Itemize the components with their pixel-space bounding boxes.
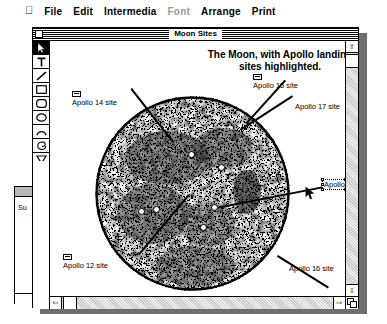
menu-item-print[interactable]: Print	[252, 6, 276, 17]
horizontal-scroll-thumb[interactable]	[63, 297, 77, 309]
scroll-left-button[interactable]: ⇦	[50, 297, 62, 309]
site-marker-apollo12[interactable]	[138, 208, 145, 215]
site-label-apollo11-selected[interactable]: Apollo 11 site	[322, 179, 345, 190]
site-marker-apollo16[interactable]	[200, 224, 207, 231]
site-marker-apollo17[interactable]	[218, 164, 225, 171]
window-shadow-right	[359, 33, 367, 314]
menu-item-file[interactable]: File	[44, 6, 62, 17]
rounded-rectangle-tool[interactable]	[33, 97, 49, 111]
arc-tool[interactable]	[33, 125, 49, 139]
site-label-apollo15[interactable]: Apollo 15 site	[253, 74, 298, 90]
rounded-rectangle-icon	[36, 99, 47, 108]
site-label-apollo14[interactable]: Apollo 14 site	[72, 91, 117, 107]
site-label-apollo14-text: Apollo 14 site	[72, 98, 117, 107]
site-marker-apollo15[interactable]	[188, 151, 195, 158]
document-icon	[63, 254, 72, 260]
close-box-icon[interactable]	[35, 30, 43, 38]
moon-surface-image	[95, 96, 290, 291]
freehand-icon	[36, 141, 47, 150]
arrow-pointer-icon	[305, 186, 316, 200]
menu-bar:  File Edit Intermedia Font Arrange Prin…	[0, 0, 387, 22]
site-label-apollo16-text: Apollo 16 site	[289, 264, 334, 273]
vertical-scroll-thumb[interactable]	[346, 54, 358, 68]
document-icon	[72, 91, 81, 97]
site-label-apollo11-text: Apollo 11 site	[324, 180, 345, 189]
site-label-apollo16[interactable]: Apollo 16 site	[289, 264, 334, 273]
site-label-apollo17-text: Apollo 17 site	[295, 102, 340, 111]
arrow-icon	[37, 43, 46, 53]
selection-handle-bottom-center[interactable]	[344, 188, 345, 191]
line-tool[interactable]	[33, 69, 49, 83]
moon-texture-svg	[95, 96, 290, 291]
rectangle-tool[interactable]	[33, 83, 49, 97]
vertical-scrollbar[interactable]: ⇧ ⇩	[345, 41, 358, 296]
arc-icon	[36, 127, 47, 136]
apple-menu-icon[interactable]: 	[25, 5, 33, 16]
pointer-tool[interactable]	[33, 41, 49, 55]
site-label-apollo17[interactable]: Apollo 17 site	[295, 102, 340, 111]
mouse-cursor	[305, 186, 316, 204]
selection-handle-bottom-left[interactable]	[321, 188, 324, 191]
oval-tool[interactable]	[33, 111, 49, 125]
selection-handle-top-center[interactable]	[344, 178, 345, 181]
growbox-square-front	[350, 301, 357, 308]
document-window[interactable]: Moon Sites	[32, 27, 359, 308]
menu-item-edit[interactable]: Edit	[73, 6, 93, 17]
scroll-down-button[interactable]: ⇩	[346, 284, 358, 296]
menu-item-arrange[interactable]: Arrange	[201, 6, 241, 17]
freehand-tool[interactable]	[33, 139, 49, 153]
site-label-apollo12-text: Apollo 12 site	[63, 261, 108, 270]
page-title: The Moon, with Apollo landing sites high…	[200, 49, 345, 73]
text-t-icon	[37, 57, 46, 67]
drawing-canvas[interactable]: The Moon, with Apollo landing sites high…	[50, 41, 345, 296]
selection-handle-middle-left[interactable]	[321, 183, 324, 186]
desktop:  File Edit Intermedia Font Arrange Prin…	[0, 0, 387, 324]
menu-item-intermedia[interactable]: Intermedia	[104, 6, 157, 17]
scroll-right-button[interactable]: ⇨	[333, 297, 345, 309]
horizontal-scrollbar[interactable]: ⇦ ⇨	[50, 296, 345, 309]
tool-palette[interactable]	[33, 41, 50, 161]
line-icon	[36, 71, 47, 81]
selection-handle-top-left[interactable]	[321, 178, 324, 181]
window-titlebar[interactable]: Moon Sites	[33, 28, 358, 41]
window-title: Moon Sites	[169, 29, 222, 39]
site-label-apollo12[interactable]: Apollo 12 site	[63, 254, 108, 270]
document-icon	[253, 74, 262, 80]
tool-palette-tail	[33, 161, 50, 309]
oval-icon	[36, 113, 47, 122]
menu-item-font: Font	[168, 6, 190, 17]
site-label-apollo15-text: Apollo 15 site	[253, 81, 298, 90]
site-marker-apollo11[interactable]	[211, 204, 218, 211]
rectangle-icon	[36, 85, 47, 94]
moon-graphic[interactable]	[95, 96, 290, 291]
site-marker-apollo14[interactable]	[153, 206, 160, 213]
window-inner: The Moon, with Apollo landing sites high…	[33, 41, 358, 309]
window-growbox[interactable]	[345, 296, 358, 309]
scroll-up-button[interactable]: ⇧	[346, 41, 358, 53]
text-tool[interactable]	[33, 55, 49, 69]
